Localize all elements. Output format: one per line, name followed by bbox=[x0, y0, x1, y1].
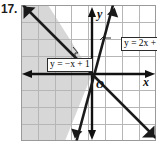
x-axis-label: x bbox=[142, 75, 149, 89]
graph-svg: y x O bbox=[21, 5, 156, 141]
problem-number: 17. bbox=[1, 3, 17, 16]
figure-container: 17. bbox=[0, 0, 157, 144]
origin-label: O bbox=[96, 78, 104, 90]
y-axis-label: y bbox=[95, 7, 103, 21]
coordinate-graph: y x O y = 2x + 1 y = −x + 1 bbox=[21, 5, 156, 141]
callout-label-line-2: y = 2x + 1 bbox=[121, 37, 157, 51]
callout-label-line-1: y = −x + 1 bbox=[47, 58, 93, 72]
